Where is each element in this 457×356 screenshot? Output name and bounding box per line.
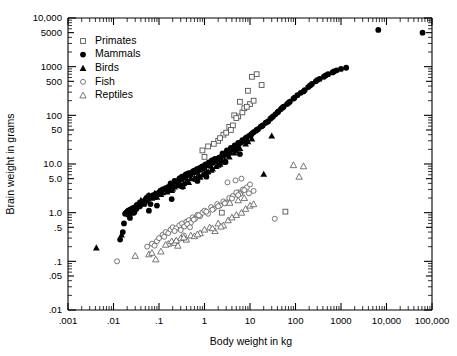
data-point (219, 210, 224, 215)
legend-item-reptiles: Reptiles (80, 88, 133, 100)
tick-marks (68, 18, 432, 310)
data-point (246, 88, 251, 93)
y-tick-label: 100 (46, 110, 62, 121)
y-tick-label: 50 (51, 124, 62, 135)
data-point (216, 204, 221, 209)
data-point (206, 144, 211, 149)
data-point (259, 123, 265, 129)
x-tick-label: 100,000 (415, 315, 450, 326)
data-point (269, 115, 275, 121)
legend-label: Reptiles (95, 88, 133, 100)
y-tick-label: .05 (49, 270, 62, 281)
data-point (283, 209, 288, 214)
tick-labels: .001.01.1110100100010,000100,00010,00050… (33, 12, 450, 326)
legend-item-fish: Fish (81, 75, 115, 87)
data-point (145, 244, 150, 249)
data-point (172, 229, 177, 234)
series-fish (115, 176, 278, 264)
data-point (238, 99, 243, 104)
data-point (158, 248, 164, 254)
data-point (292, 95, 298, 101)
data-point (249, 74, 254, 79)
data-point (162, 234, 167, 239)
data-point (132, 253, 138, 259)
plot-canvas: .001.01.1110100100010,000100,00010,00050… (0, 0, 457, 356)
data-point (148, 201, 154, 207)
legend-marker-filled-circle-icon (80, 52, 86, 58)
data-point (191, 217, 196, 222)
data-point (169, 196, 175, 202)
data-point (314, 77, 320, 83)
data-point (228, 128, 233, 133)
legend: PrimatesMammalsBirdsFishReptiles (80, 34, 141, 100)
data-point (296, 173, 302, 179)
data-point (204, 209, 209, 214)
data-point (375, 27, 381, 33)
data-point (290, 162, 296, 168)
legend-item-birds: Birds (80, 61, 119, 73)
data-point (224, 130, 229, 135)
y-tick-label: .1 (54, 256, 62, 267)
y-tick-label: 1000 (41, 61, 62, 72)
legend-label: Fish (95, 75, 115, 87)
axes (68, 18, 432, 310)
data-point (251, 188, 256, 193)
data-point (250, 201, 256, 207)
x-tick-label: 10,000 (372, 315, 401, 326)
data-point (154, 203, 160, 209)
data-point (121, 221, 127, 227)
data-point (259, 83, 264, 88)
legend-marker-open-circle-icon (81, 79, 86, 84)
y-tick-label: .5 (54, 222, 62, 233)
brain-body-weight-scatter-chart: .001.01.1110100100010,000100,00010,00050… (0, 0, 457, 356)
data-point (301, 89, 307, 95)
legend-label: Primates (95, 34, 136, 46)
data-point (200, 148, 205, 153)
data-point (274, 109, 280, 115)
data-point (254, 127, 260, 133)
data-point (115, 259, 120, 264)
data-point (210, 207, 215, 212)
y-tick-label: 500 (46, 76, 62, 87)
data-point (248, 182, 253, 187)
x-tick-label: 1 (202, 315, 207, 326)
y-tick-label: .01 (49, 304, 62, 315)
legend-marker-filled-triangle-icon (80, 65, 87, 71)
data-points (93, 27, 425, 264)
data-point (187, 225, 192, 230)
data-point (323, 73, 329, 79)
data-point (202, 154, 207, 159)
y-tick-label: 10.0 (43, 158, 62, 169)
data-point (153, 256, 159, 262)
data-point (244, 104, 249, 109)
data-point (230, 123, 235, 128)
y-axis-title: Brain weight in grams (4, 114, 16, 215)
data-point (242, 188, 247, 193)
data-point (286, 100, 292, 106)
y-tick-label: 5.0 (49, 173, 62, 184)
data-point (246, 191, 251, 196)
y-tick-label: 10,000 (33, 12, 62, 23)
legend-item-primates: Primates (81, 34, 137, 46)
data-point (235, 197, 241, 203)
data-point (264, 119, 270, 125)
data-point (152, 243, 157, 248)
data-point (260, 171, 267, 177)
data-point (196, 213, 201, 218)
data-point (225, 180, 230, 185)
legend-label: Mammals (95, 47, 141, 59)
data-point (239, 176, 244, 181)
data-point (343, 65, 349, 71)
data-point (331, 68, 337, 74)
legend-item-mammals: Mammals (80, 47, 140, 59)
data-point (211, 141, 216, 146)
data-point (254, 72, 259, 77)
y-tick-label: 5000 (41, 27, 62, 38)
legend-marker-open-triangle-icon (80, 92, 86, 98)
data-point (178, 228, 183, 233)
x-tick-label: 1000 (330, 315, 351, 326)
data-point (234, 116, 239, 121)
y-tick-label: 1.0 (49, 207, 62, 218)
x-tick-label: .01 (107, 315, 120, 326)
data-point (218, 136, 223, 141)
